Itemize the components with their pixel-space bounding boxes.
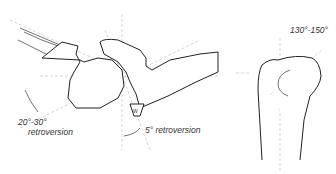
angle-label-130-150: 130°-150° — [290, 26, 328, 35]
humerus-frontal — [258, 56, 321, 160]
shoulder-anatomy-diagram: W — [0, 0, 336, 174]
scapula: W — [42, 39, 218, 116]
retroversion-label: retroversion — [28, 128, 73, 137]
angle-label-20-30: 20°-30° — [18, 118, 47, 127]
angle-label-5: 5° retroversion — [145, 126, 200, 135]
svg-text:W: W — [133, 108, 138, 114]
